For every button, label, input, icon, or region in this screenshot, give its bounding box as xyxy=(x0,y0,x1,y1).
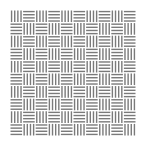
weave-cell-horizontal xyxy=(74,112,86,121)
weave-cell-vertical xyxy=(75,23,84,35)
weave-cell-horizontal xyxy=(23,37,35,46)
weave-cell-horizontal xyxy=(36,49,48,58)
weave-cell-horizontal xyxy=(86,49,98,58)
weave-cell-vertical xyxy=(37,111,46,123)
weave-cell-horizontal xyxy=(23,87,35,96)
weave-cell-horizontal xyxy=(124,12,136,21)
weave-cell-horizontal xyxy=(48,12,60,21)
weave-cell-horizontal xyxy=(111,75,123,84)
weave-cell-horizontal xyxy=(74,12,86,21)
weave-cell-vertical xyxy=(75,124,84,136)
weave-cell-vertical xyxy=(37,36,46,48)
weave-cell-horizontal xyxy=(61,75,73,84)
weave-cell-horizontal xyxy=(111,24,123,33)
weave-cell-horizontal xyxy=(61,100,73,109)
weave-cell-horizontal xyxy=(124,37,136,46)
weave-cell-vertical xyxy=(37,86,46,98)
weave-cell-horizontal xyxy=(36,125,48,134)
weave-cell-vertical xyxy=(75,48,84,60)
weave-cell-vertical xyxy=(49,23,58,35)
weave-cell-horizontal xyxy=(74,37,86,46)
weave-cell-vertical xyxy=(125,99,134,111)
weave-cell-horizontal xyxy=(124,62,136,71)
weave-cell-vertical xyxy=(24,74,33,86)
weave-cell-horizontal xyxy=(86,125,98,134)
weave-cell-vertical xyxy=(87,36,96,48)
weave-cell-horizontal xyxy=(48,87,60,96)
weave-cell-horizontal xyxy=(23,12,35,21)
weave-cell-horizontal xyxy=(11,100,23,109)
weave-cell-horizontal xyxy=(11,75,23,84)
weave-cell-horizontal xyxy=(99,12,111,21)
weave-cell-horizontal xyxy=(74,87,86,96)
weave-cell-vertical xyxy=(100,74,109,86)
weave-cell-vertical xyxy=(100,99,109,111)
weave-cell-horizontal xyxy=(86,24,98,33)
weave-cell-vertical xyxy=(12,11,21,23)
weave-cell-horizontal xyxy=(86,75,98,84)
weave-cell-vertical xyxy=(12,111,21,123)
weave-cell-vertical xyxy=(100,23,109,35)
weave-cell-vertical xyxy=(62,111,71,123)
weave-cell-vertical xyxy=(125,23,134,35)
weave-cell-vertical xyxy=(24,124,33,136)
weave-cell-horizontal xyxy=(99,62,111,71)
weave-cell-horizontal xyxy=(23,62,35,71)
weave-cell-vertical xyxy=(112,86,121,98)
weave-cell-vertical xyxy=(125,48,134,60)
weave-cell-vertical xyxy=(112,61,121,73)
weave-cell-vertical xyxy=(112,111,121,123)
weave-cell-vertical xyxy=(87,11,96,23)
weave-cell-vertical xyxy=(37,11,46,23)
weave-cell-horizontal xyxy=(99,37,111,46)
weave-cell-vertical xyxy=(62,61,71,73)
weave-cell-horizontal xyxy=(124,112,136,121)
weave-cell-vertical xyxy=(12,61,21,73)
weave-cell-horizontal xyxy=(48,112,60,121)
weave-cell-vertical xyxy=(49,99,58,111)
weave-cell-vertical xyxy=(49,124,58,136)
weave-cell-horizontal xyxy=(23,112,35,121)
weave-cell-horizontal xyxy=(48,62,60,71)
weave-cell-vertical xyxy=(87,111,96,123)
weave-cell-vertical xyxy=(100,48,109,60)
weave-cell-vertical xyxy=(125,124,134,136)
weave-cell-vertical xyxy=(112,36,121,48)
weave-cell-vertical xyxy=(49,48,58,60)
weave-cell-vertical xyxy=(62,86,71,98)
weave-cell-horizontal xyxy=(11,125,23,134)
weave-cell-horizontal xyxy=(61,125,73,134)
weave-cell-vertical xyxy=(75,74,84,86)
weave-cell-vertical xyxy=(49,74,58,86)
weave-cell-horizontal xyxy=(111,125,123,134)
weave-cell-vertical xyxy=(87,61,96,73)
weave-cell-horizontal xyxy=(111,100,123,109)
weave-cell-vertical xyxy=(24,23,33,35)
weave-cell-horizontal xyxy=(11,24,23,33)
weave-cell-horizontal xyxy=(99,112,111,121)
weave-cell-vertical xyxy=(75,99,84,111)
weave-cell-horizontal xyxy=(36,75,48,84)
weave-cell-horizontal xyxy=(48,37,60,46)
weave-cell-vertical xyxy=(112,11,121,23)
weave-cell-vertical xyxy=(100,124,109,136)
weave-cell-vertical xyxy=(24,48,33,60)
weave-cell-horizontal xyxy=(74,62,86,71)
weave-cell-horizontal xyxy=(11,49,23,58)
weave-cell-horizontal xyxy=(36,24,48,33)
weave-cell-horizontal xyxy=(61,49,73,58)
weave-cell-horizontal xyxy=(86,100,98,109)
weave-cell-horizontal xyxy=(99,87,111,96)
weave-cell-vertical xyxy=(87,86,96,98)
weave-cell-vertical xyxy=(125,74,134,86)
weave-cell-vertical xyxy=(62,36,71,48)
weave-cell-horizontal xyxy=(111,49,123,58)
weave-cell-vertical xyxy=(12,36,21,48)
weave-cell-vertical xyxy=(24,99,33,111)
weave-cell-vertical xyxy=(37,61,46,73)
weave-cell-vertical xyxy=(12,86,21,98)
basketweave-pattern xyxy=(10,10,136,136)
weave-cell-horizontal xyxy=(124,87,136,96)
weave-cell-horizontal xyxy=(36,100,48,109)
weave-cell-horizontal xyxy=(61,24,73,33)
